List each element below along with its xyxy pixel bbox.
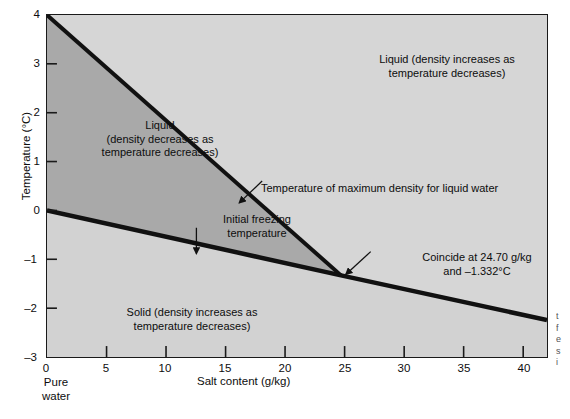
y-tick-label-minus-1: –1 <box>11 253 37 265</box>
x-tick-label-5: 5 <box>91 362 121 374</box>
edge-caption-sliver: tfesi <box>556 311 570 369</box>
origin-note-line1: Pure <box>33 375 79 389</box>
x-tick-label-25: 25 <box>330 362 360 374</box>
x-tick-label-15: 15 <box>210 362 240 374</box>
origin-note: Pure water <box>33 375 79 403</box>
x-tick-label-20: 20 <box>270 362 300 374</box>
x-tick-label-35: 35 <box>449 362 479 374</box>
annotation-initial-freezing: Initial freezing temperature <box>202 213 312 240</box>
figure-container: Liquid (density decreases as temperature… <box>0 0 570 419</box>
y-tick-label-minus-2: –2 <box>11 302 37 314</box>
origin-note-line2: water <box>33 389 79 403</box>
x-tick-label-10: 10 <box>150 362 180 374</box>
annotation-coincide-point: Coincide at 24.70 g/kg and –1.332°C <box>402 251 548 278</box>
x-tick-label-0: 0 <box>31 362 61 374</box>
y-tick-label-4: 4 <box>14 8 40 20</box>
annotation-max-density-line: Temperature of maximum density for liqui… <box>261 182 509 196</box>
x-axis-title: Salt content (g/kg) <box>197 375 290 387</box>
y-axis-title: Temperature (°C) <box>20 96 32 216</box>
y-tick-label-3: 3 <box>14 57 40 69</box>
x-tick-label-30: 30 <box>389 362 419 374</box>
annotation-solid-region: Solid (density increases as temperature … <box>97 306 287 333</box>
annotation-liquid-density-decreases: Liquid (density decreases as temperature… <box>85 119 235 160</box>
x-tick-label-40: 40 <box>509 362 539 374</box>
plot-area: Liquid (density decreases as temperature… <box>46 14 548 358</box>
annotation-liquid-density-increases: Liquid (density increases as temperature… <box>347 53 547 80</box>
